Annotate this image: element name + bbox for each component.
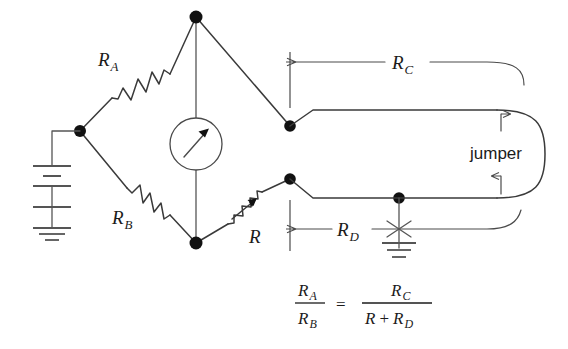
dimension-rc — [290, 52, 524, 108]
arm-ra — [80, 17, 196, 131]
arm-variable-resistor — [196, 179, 290, 243]
circuit-diagram-canvas: RA RB R RC RD jumper RA RB = — [0, 0, 568, 349]
label-rd: RD — [336, 219, 360, 244]
galvanometer-branch — [170, 17, 222, 243]
label-rc: RC — [391, 52, 414, 77]
circuit-schematic-svg: RA RB R RC RD jumper RA RB = — [0, 0, 568, 349]
battery-branch — [33, 131, 80, 240]
equation-equals: = — [336, 295, 346, 314]
ground-rd-symbol — [382, 198, 416, 257]
equation-lhs-numerator: RA — [297, 281, 317, 303]
equation-group: RA RB = RC R+RD — [295, 281, 432, 331]
label-ra: RA — [97, 49, 119, 74]
label-r-variable: R — [248, 226, 261, 247]
node-bridge-bottom — [190, 237, 203, 250]
node-bridge-top — [190, 11, 203, 24]
label-jumper: jumper — [469, 144, 522, 163]
equation-rhs-numerator: RC — [390, 281, 411, 303]
equation-rhs-denominator: R+RD — [364, 309, 413, 331]
equation-lhs-denominator: RB — [297, 309, 317, 331]
arm-top-right — [196, 17, 290, 126]
label-rb: RB — [111, 207, 133, 232]
